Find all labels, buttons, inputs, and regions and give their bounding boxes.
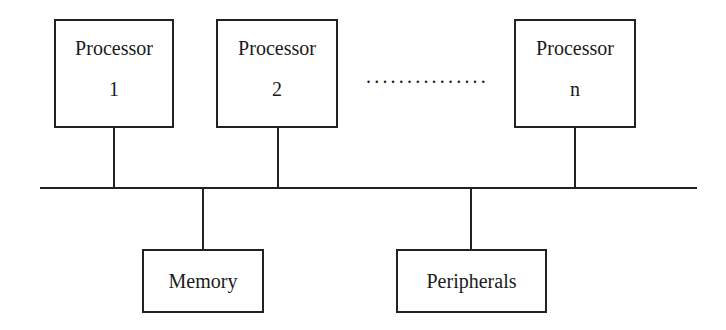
processor-1-index: 1 [109, 78, 119, 101]
peripherals-connector [470, 188, 472, 250]
processor-1-box: Processor 1 [54, 19, 174, 128]
processor-n-index: n [570, 78, 580, 101]
processor-n-box: Processor n [514, 19, 636, 128]
processor-n-connector [574, 128, 576, 188]
memory-label: Memory [169, 270, 238, 293]
processor-2-index: 2 [272, 78, 282, 101]
peripherals-label: Peripherals [427, 270, 517, 293]
processor-2-box: Processor 2 [216, 19, 338, 128]
processor-2-label: Processor [238, 37, 316, 60]
memory-connector [202, 188, 204, 250]
processor-1-label: Processor [75, 37, 153, 60]
processor-2-connector [277, 128, 279, 188]
memory-box: Memory [142, 249, 264, 313]
processor-1-connector [113, 128, 115, 188]
processor-n-label: Processor [536, 37, 614, 60]
system-bus [40, 187, 697, 189]
processor-ellipsis: ............... [366, 66, 489, 86]
peripherals-box: Peripherals [396, 249, 547, 313]
